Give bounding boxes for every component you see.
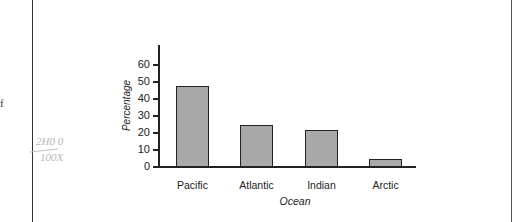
y-tick [153, 81, 159, 83]
y-tick [153, 149, 159, 151]
x-tick-label: Atlantic [227, 179, 287, 191]
bar-chart: 0102030405060 Percentage PacificAtlantic… [0, 0, 512, 222]
y-axis-label: Percentage [121, 76, 132, 136]
bar-arctic [369, 159, 402, 166]
bar-atlantic [240, 125, 273, 166]
y-tick-label: 0 [128, 161, 150, 172]
y-tick [153, 64, 159, 66]
bar-pacific [176, 86, 209, 166]
y-tick [153, 132, 159, 134]
bar-indian [305, 130, 338, 166]
y-tick-label: 60 [128, 59, 150, 70]
y-tick [153, 115, 159, 117]
x-tick-label: Indian [292, 179, 352, 191]
y-tick [153, 98, 159, 100]
x-tick-label: Arctic [356, 179, 416, 191]
y-tick [153, 166, 159, 168]
x-tick-label: Pacific [163, 179, 223, 191]
y-tick-label: 10 [128, 144, 150, 155]
x-axis [158, 166, 416, 168]
x-axis-label: Ocean [265, 195, 325, 207]
